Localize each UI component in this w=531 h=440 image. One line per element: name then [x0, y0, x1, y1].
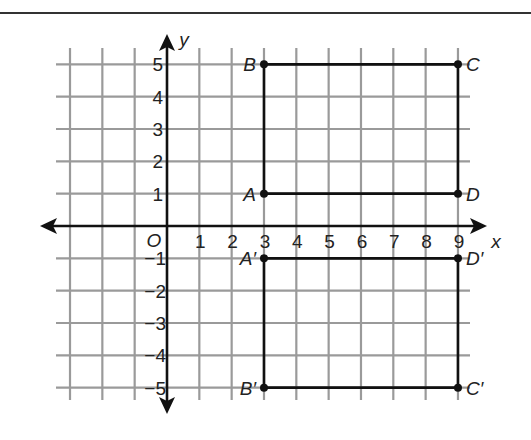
vertex-label: A [242, 184, 256, 205]
vertex-point [454, 60, 462, 68]
x-tick-label: 6 [357, 231, 368, 252]
vertex-label: B′ [240, 378, 258, 399]
tick-labels: yxO12345678912345−1−2−3−4−5 [144, 29, 502, 399]
x-tick-label: 1 [195, 231, 206, 252]
x-tick-label: 9 [454, 231, 465, 252]
vertex-label: B [243, 54, 256, 75]
y-tick-label: −2 [144, 281, 166, 302]
y-tick-label: −5 [144, 378, 166, 399]
y-tick-label: −4 [144, 345, 166, 366]
vertex-point [260, 384, 268, 392]
x-tick-label: 8 [421, 231, 432, 252]
y-tick-label: 3 [152, 119, 163, 140]
vertex-label: D′ [466, 248, 485, 269]
x-tick-label: 2 [227, 231, 238, 252]
vertex-point [454, 254, 462, 262]
vertex-label: C [466, 54, 480, 75]
y-tick-label: 1 [152, 184, 163, 205]
vertex-label: D [466, 184, 480, 205]
y-tick-label: 4 [152, 87, 163, 108]
coordinate-plane: yxO12345678912345−1−2−3−4−5 ABCDA′B′C′D′ [0, 0, 531, 440]
vertex-label: A′ [239, 248, 258, 269]
vertex-point [260, 254, 268, 262]
x-tick-label: 3 [260, 231, 271, 252]
vertex-point [260, 60, 268, 68]
y-axis-label: y [177, 29, 190, 50]
vertex-point [454, 190, 462, 198]
x-tick-label: 7 [389, 231, 400, 252]
x-tick-label: 5 [324, 231, 335, 252]
x-axis-label: x [490, 231, 502, 252]
y-tick-label: 5 [152, 54, 163, 75]
y-tick-label: −3 [144, 313, 166, 334]
vertex-label: C′ [466, 378, 485, 399]
y-tick-label: −1 [144, 248, 166, 269]
y-tick-label: 2 [152, 151, 163, 172]
x-tick-label: 4 [292, 231, 303, 252]
vertex-point [454, 384, 462, 392]
vertex-point [260, 190, 268, 198]
